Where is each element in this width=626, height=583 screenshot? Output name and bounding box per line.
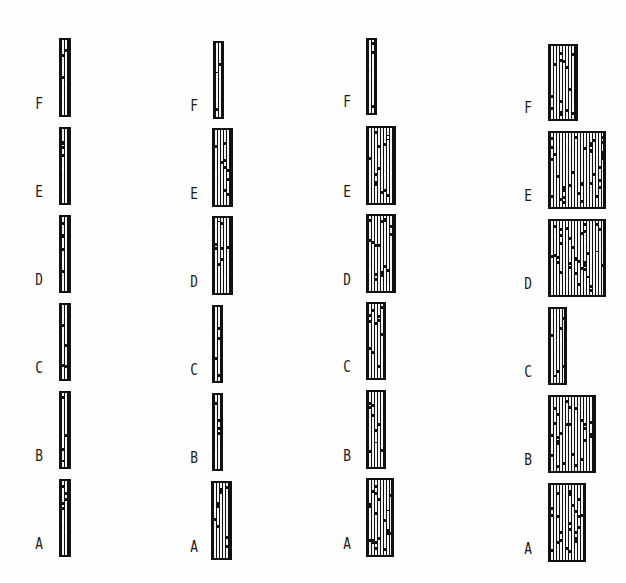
- marker-dot: [590, 285, 592, 288]
- marker-dot: [65, 434, 67, 437]
- marker-dot: [62, 364, 64, 367]
- marker-dot: [560, 271, 562, 274]
- marker-dot: [375, 251, 377, 254]
- marker-dot: [590, 289, 592, 292]
- marker-dot: [384, 548, 386, 551]
- marker-dot: [557, 175, 559, 178]
- group-label: C: [189, 363, 199, 378]
- marker-dot: [378, 244, 380, 247]
- marker-dot: [62, 168, 64, 171]
- marker-dot: [387, 169, 389, 172]
- marker-dot: [578, 515, 580, 518]
- marker-dot: [381, 449, 383, 452]
- marker-dot: [587, 252, 589, 255]
- marker-dot: [569, 406, 571, 409]
- marker-dot: [369, 239, 371, 242]
- marker-dot: [557, 328, 559, 331]
- marker-dot: [378, 498, 380, 501]
- marker-dot: [551, 174, 553, 177]
- marker-dot: [557, 465, 559, 468]
- marker-dot: [590, 435, 592, 438]
- marker-dot: [227, 246, 229, 249]
- marker-dot: [590, 182, 592, 185]
- marker-dot: [596, 231, 598, 234]
- marker-dot: [575, 464, 577, 467]
- marker-dot: [62, 448, 64, 451]
- marker-dot: [215, 253, 217, 256]
- marker-dot: [375, 186, 377, 189]
- marker-dot: [387, 545, 389, 548]
- marker-dot: [218, 351, 220, 354]
- marker-dot: [218, 374, 220, 377]
- marker-dot: [560, 100, 562, 103]
- marker-dot: [387, 532, 389, 535]
- marker-dot: [557, 143, 559, 146]
- marker-dot: [581, 200, 583, 203]
- marker-dot: [381, 355, 383, 358]
- marker-dot: [593, 185, 595, 188]
- marker-dot: [566, 139, 568, 142]
- marker-dot: [554, 417, 556, 420]
- marker-dot: [384, 265, 386, 268]
- group-label: F: [189, 99, 199, 114]
- marker-dot: [572, 453, 574, 456]
- marker-dot: [381, 159, 383, 162]
- marker-dot: [599, 166, 601, 169]
- marker-dot: [221, 258, 223, 261]
- marker-dot: [593, 273, 595, 276]
- marker-dot: [375, 131, 377, 134]
- striped-block-figure: FEDCBAFEDCBAFEDCBAFEDCBA: [0, 0, 626, 583]
- marker-dot: [563, 533, 565, 536]
- marker-dot: [375, 492, 377, 495]
- marker-dot: [390, 532, 392, 535]
- marker-dot: [372, 228, 374, 231]
- marker-dot: [214, 518, 216, 521]
- marker-dot: [599, 228, 601, 231]
- marker-dot: [381, 191, 383, 194]
- marker-dot: [554, 70, 556, 73]
- marker-dot: [554, 163, 556, 166]
- marker-dot: [581, 171, 583, 174]
- marker-dot: [215, 192, 217, 195]
- marker-dot: [375, 173, 377, 176]
- striped-block-a: [211, 481, 232, 560]
- group-label: B: [34, 449, 44, 464]
- marker-dot: [584, 261, 586, 264]
- marker-dot: [560, 531, 562, 534]
- marker-dot: [215, 247, 217, 250]
- group-label: E: [342, 185, 352, 200]
- marker-dot: [593, 173, 595, 176]
- marker-dot: [584, 423, 586, 426]
- marker-dot: [557, 458, 559, 461]
- marker-dot: [372, 42, 374, 45]
- marker-dot: [220, 491, 222, 494]
- marker-dot: [381, 306, 383, 309]
- marker-dot: [384, 501, 386, 504]
- marker-dot: [378, 315, 380, 318]
- marker-dot: [551, 549, 553, 552]
- marker-dot: [369, 352, 371, 355]
- marker-dot: [551, 158, 553, 161]
- group-label: E: [34, 185, 44, 200]
- marker-dot: [216, 45, 218, 48]
- marker-dot: [578, 512, 580, 515]
- marker-dot: [563, 60, 565, 63]
- marker-dot: [593, 169, 595, 172]
- marker-dot: [375, 137, 377, 140]
- marker-dot: [602, 151, 604, 154]
- marker-dot: [381, 440, 383, 443]
- marker-dot: [215, 199, 217, 202]
- marker-dot: [372, 423, 374, 426]
- marker-dot: [62, 54, 64, 57]
- marker-dot: [584, 264, 586, 267]
- marker-dot: [557, 370, 559, 373]
- marker-dot: [551, 434, 553, 437]
- marker-dot: [575, 258, 577, 261]
- marker-dot: [569, 184, 571, 187]
- marker-dot: [372, 490, 374, 493]
- marker-dot: [224, 278, 226, 281]
- marker-dot: [369, 64, 371, 67]
- marker-dot: [599, 151, 601, 154]
- marker-dot: [560, 234, 562, 237]
- marker-dot: [551, 107, 553, 110]
